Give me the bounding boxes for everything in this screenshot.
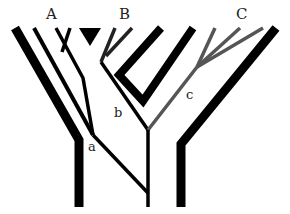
taxon-label-b: B [119,5,130,23]
cladogram-diagram: A B C a b c [0,0,290,214]
taxon-label-a: A [45,5,57,23]
node-label-b: b [114,105,122,120]
outer-right-thick-branch [181,28,276,207]
truncated-lineage-triangle [79,28,101,46]
clade-c-branch-2 [197,28,240,67]
node-label-c: c [186,87,193,102]
taxon-label-c: C [236,5,247,23]
central-thick-chevron [119,28,193,101]
clade-b-branch-1 [101,28,115,62]
node-label-a: a [88,139,96,154]
clade-a-stem [93,135,148,193]
